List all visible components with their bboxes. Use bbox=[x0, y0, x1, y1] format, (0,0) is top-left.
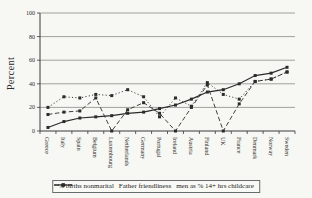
x-category-label: Belgium bbox=[92, 137, 98, 158]
data-point-marker bbox=[206, 81, 209, 84]
data-point-marker bbox=[174, 104, 177, 107]
x-category-label: Portugal bbox=[156, 137, 162, 158]
data-point-marker bbox=[158, 107, 161, 110]
data-point-marker bbox=[126, 112, 129, 115]
x-category-label: Spain bbox=[76, 137, 82, 151]
data-point-marker bbox=[142, 101, 145, 104]
data-point-marker bbox=[286, 66, 289, 69]
data-point-marker bbox=[222, 93, 225, 96]
x-category-label: Germany bbox=[140, 137, 146, 159]
data-point-marker bbox=[62, 95, 65, 98]
legend-label: Father friendliness bbox=[119, 182, 171, 190]
data-point-marker bbox=[62, 111, 65, 114]
data-point-marker bbox=[190, 105, 193, 108]
data-point-marker bbox=[158, 115, 161, 118]
data-point-marker bbox=[78, 117, 81, 120]
data-point-marker bbox=[238, 102, 241, 105]
data-point-marker bbox=[142, 95, 145, 98]
data-point-marker bbox=[238, 82, 241, 85]
plot-area: 020406080100GreeceItalySpainBelgiumLuxem… bbox=[0, 0, 312, 198]
data-point-marker bbox=[174, 96, 177, 99]
x-category-label: Netherlands bbox=[124, 137, 130, 167]
x-category-label: Greece bbox=[44, 137, 50, 154]
x-category-label: Sweden bbox=[284, 137, 290, 156]
legend: % births nonmaritalFather friendlinessme… bbox=[52, 180, 260, 193]
data-point-marker bbox=[222, 88, 225, 91]
data-point-marker bbox=[222, 130, 225, 133]
data-point-marker bbox=[190, 98, 193, 101]
y-tick-label: 40 bbox=[29, 81, 35, 87]
data-point-marker bbox=[270, 72, 273, 75]
data-point-marker bbox=[270, 78, 273, 81]
data-point-marker bbox=[110, 114, 113, 117]
series-line-2 bbox=[48, 72, 287, 131]
chart-figure: Percent 020406080100GreeceItalySpainBelg… bbox=[0, 0, 312, 198]
x-category-label: Italy bbox=[60, 137, 66, 148]
x-category-label: Finland bbox=[204, 137, 210, 155]
y-tick-label: 20 bbox=[29, 104, 35, 110]
y-tick-label: 80 bbox=[29, 34, 35, 40]
data-point-marker bbox=[110, 94, 113, 97]
series-line-1 bbox=[48, 67, 287, 127]
x-category-label: Denmark bbox=[252, 137, 258, 159]
legend-item-2: Father friendliness bbox=[119, 182, 171, 190]
data-point-marker bbox=[126, 88, 129, 91]
x-category-label: Ireland bbox=[172, 137, 178, 154]
y-tick-label: 100 bbox=[26, 10, 35, 16]
data-point-marker bbox=[126, 108, 129, 111]
data-point-marker bbox=[94, 93, 97, 96]
data-point-marker bbox=[94, 115, 97, 118]
data-point-marker bbox=[110, 130, 113, 133]
data-point-marker bbox=[142, 111, 145, 114]
data-point-marker bbox=[238, 98, 241, 101]
data-point-marker bbox=[94, 96, 97, 99]
x-category-label: UK bbox=[220, 137, 226, 146]
legend-item-3: men as % 14+ hrs childcare bbox=[176, 182, 254, 190]
y-tick-label: 0 bbox=[32, 128, 35, 134]
x-category-label: France bbox=[236, 137, 242, 154]
data-point-marker bbox=[158, 112, 161, 115]
y-tick-label: 60 bbox=[29, 57, 35, 63]
x-category-label: Norway bbox=[268, 137, 274, 156]
data-point-marker bbox=[286, 71, 289, 74]
x-category-label: Luxembourg bbox=[108, 137, 114, 168]
data-point-marker bbox=[62, 120, 65, 123]
data-point-marker bbox=[46, 106, 49, 109]
data-point-marker bbox=[254, 74, 257, 77]
data-point-marker bbox=[46, 126, 49, 129]
data-point-marker bbox=[46, 113, 49, 116]
series-line-3 bbox=[48, 72, 287, 117]
data-point-marker bbox=[78, 109, 81, 112]
data-point-marker bbox=[254, 80, 257, 83]
data-point-marker bbox=[174, 130, 177, 133]
data-point-marker bbox=[78, 96, 81, 99]
x-category-label: Austria bbox=[188, 137, 194, 155]
legend-label: men as % 14+ hrs childcare bbox=[176, 182, 254, 190]
legend-line-sample-icon bbox=[53, 181, 73, 189]
data-point-marker bbox=[206, 91, 209, 94]
